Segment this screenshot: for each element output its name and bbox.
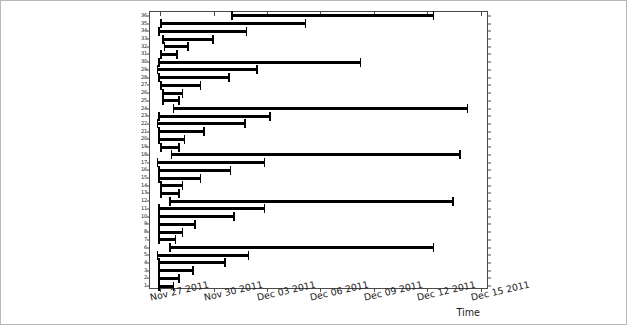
y-axis-tick-label: 24 [141, 106, 147, 111]
x-axis-tick-label: Dec 03 2011 [256, 280, 317, 303]
y-axis-tick-right [487, 262, 491, 263]
y-axis-tick-right [487, 270, 491, 271]
bar-end-cap [269, 112, 271, 121]
bar-end-cap [233, 212, 235, 221]
bar-end-cap [244, 119, 246, 128]
y-axis-tick-right [487, 85, 491, 86]
bar-end-cap [182, 89, 184, 98]
interval-bar [158, 269, 194, 272]
x-axis-tick-label: Nov 30 2011 [203, 279, 264, 302]
y-axis-tick-label: 3 [144, 268, 147, 273]
y-axis-tick-label: 12 [141, 199, 147, 204]
y-axis-tick-label: 23 [141, 114, 147, 119]
bar-end-cap [433, 243, 435, 252]
x-axis-tick-label: Dec 12 2011 [416, 280, 477, 303]
x-axis-tick-label: Dec 15 2011 [470, 280, 531, 303]
y-axis-tick-right [487, 224, 491, 225]
y-axis-tick-label: 29 [141, 67, 147, 72]
x-axis-tick-top [481, 12, 482, 16]
interval-bar [160, 84, 201, 87]
y-axis-tick-right [487, 116, 491, 117]
bar-end-cap [212, 35, 214, 44]
y-axis-tick-label: 33 [141, 36, 147, 41]
y-axis-tick-label: 27 [141, 83, 147, 88]
x-axis-tick-label: Dec 09 2011 [363, 280, 424, 303]
plot-area: Nov 27 2011Nov 30 2011Dec 03 2011Dec 06 … [149, 11, 488, 289]
interval-bar [158, 76, 229, 79]
bar-end-cap [178, 274, 180, 283]
interval-bar [160, 22, 306, 25]
interval-bar [160, 53, 178, 56]
bar-end-cap [203, 127, 205, 136]
bar-end-cap [264, 204, 266, 213]
y-axis-tick-label: 7 [144, 237, 147, 242]
interval-bar [158, 215, 235, 218]
y-axis-tick-label: 2 [144, 276, 147, 281]
y-axis-tick-right [487, 62, 491, 63]
y-axis-tick-label: 17 [141, 160, 147, 165]
bar-end-cap [176, 50, 178, 59]
y-axis-tick-right [487, 208, 491, 209]
bar-start-cap [164, 42, 166, 51]
y-axis-tick-right [487, 139, 491, 140]
y-axis-tick-label: 15 [141, 175, 147, 180]
y-axis-tick-label: 16 [141, 168, 147, 173]
interval-bar [231, 14, 434, 17]
bar-end-cap [246, 27, 248, 36]
bar-end-cap [459, 150, 461, 159]
y-axis-tick-label: 13 [141, 191, 147, 196]
x-axis-tick-label: Dec 06 2011 [309, 280, 370, 303]
bar-end-cap [467, 104, 469, 113]
interval-bar [158, 138, 185, 141]
y-axis-tick-label: 34 [141, 29, 147, 34]
bar-start-cap [160, 50, 162, 59]
y-axis-tick-label: 19 [141, 145, 147, 150]
bar-end-cap [184, 135, 186, 144]
y-axis-tick-label: 36 [141, 13, 147, 18]
interval-bar [157, 68, 258, 71]
interval-bar [160, 146, 180, 149]
y-axis-tick-right [487, 46, 491, 47]
interval-bar [162, 38, 214, 41]
y-axis-tick-label: 31 [141, 52, 147, 57]
interval-bar [157, 254, 250, 257]
bar-start-cap [158, 58, 160, 67]
y-axis-tick-right [487, 216, 491, 217]
y-axis-tick-right [487, 23, 491, 24]
interval-bar [158, 169, 231, 172]
interval-bar [158, 261, 226, 264]
figure-container: Nov 27 2011Nov 30 2011Dec 03 2011Dec 06 … [0, 0, 627, 325]
bar-end-cap [360, 58, 362, 67]
bar-start-cap [169, 197, 171, 206]
bar-end-cap [264, 158, 266, 167]
interval-bar [162, 99, 180, 102]
bar-start-cap [160, 143, 162, 152]
bar-end-cap [200, 174, 202, 183]
y-axis-tick-label: 11 [141, 206, 147, 211]
y-axis-tick-label: 18 [141, 152, 147, 157]
bar-end-cap [178, 189, 180, 198]
interval-bar [169, 200, 454, 203]
interval-bar [162, 92, 183, 95]
bar-end-cap [248, 251, 250, 260]
y-axis-tick-right [487, 39, 491, 40]
bar-start-cap [162, 96, 164, 105]
interval-bar [160, 184, 183, 187]
y-axis-tick-right [487, 185, 491, 186]
y-axis-tick-right [487, 286, 491, 287]
interval-bar [157, 161, 266, 164]
bar-end-cap [178, 143, 180, 152]
bar-end-cap [230, 166, 232, 175]
x-axis-tick-top [160, 12, 161, 16]
interval-bar [158, 115, 270, 118]
bar-end-cap [256, 65, 258, 74]
y-axis-tick-label: 5 [144, 253, 147, 258]
bar-end-cap [175, 235, 177, 244]
y-axis-tick-label: 28 [141, 75, 147, 80]
y-axis-tick-right [487, 131, 491, 132]
y-axis-tick-right [487, 239, 491, 240]
interval-bar [160, 192, 180, 195]
bar-end-cap [178, 96, 180, 105]
y-axis-tick-label: 8 [144, 230, 147, 235]
bar-start-cap [158, 235, 160, 244]
